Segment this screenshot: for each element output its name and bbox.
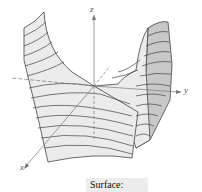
y-axis-label: y: [184, 85, 188, 95]
x-axis-label: x: [20, 162, 24, 172]
x-axis-arrow-icon: [24, 163, 29, 169]
y-axis-arrow-icon: [176, 90, 182, 94]
z-axis-label: z: [90, 4, 94, 14]
surface-caption-label: Surface:: [90, 179, 123, 190]
z-axis-arrow-icon: [92, 14, 96, 20]
surface-caption: Surface:: [86, 178, 148, 192]
surface-plot: [0, 0, 202, 178]
x-axis-hidden: [94, 66, 110, 86]
